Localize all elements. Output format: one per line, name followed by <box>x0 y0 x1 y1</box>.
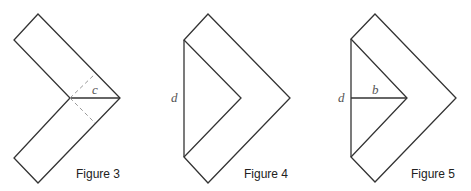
chevron-shape <box>184 14 290 183</box>
label-d: d <box>338 90 345 105</box>
figure-4-caption: Figure 4 <box>244 167 288 181</box>
figure-3-caption: Figure 3 <box>76 167 120 181</box>
label-b: b <box>372 82 379 97</box>
label-c: c <box>92 82 98 97</box>
figure-5: d b Figure 5 <box>338 14 456 182</box>
figure-4: d Figure 4 <box>171 14 290 183</box>
figure-5-caption: Figure 5 <box>411 167 455 181</box>
dashed-line-lower <box>70 98 95 123</box>
figure-3: c Figure 3 <box>14 14 120 183</box>
figures-diagram: c Figure 3 d Figure 4 d b Figure 5 <box>0 0 471 191</box>
label-d: d <box>171 90 178 105</box>
